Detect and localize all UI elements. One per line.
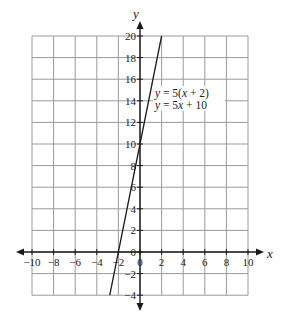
- x-tick-label: −4: [91, 256, 103, 268]
- y-tick-label: 16: [125, 73, 137, 85]
- x-axis-right-arrow-icon: [256, 249, 264, 256]
- x-tick-label: 8: [224, 256, 230, 268]
- x-tick-label: −6: [69, 256, 81, 268]
- y-tick-label: 20: [125, 30, 137, 42]
- y-tick-label: 2: [131, 224, 137, 236]
- y-tick-label: 4: [131, 203, 137, 215]
- y-tick-label: 12: [125, 116, 136, 128]
- x-tick-label: 4: [180, 256, 186, 268]
- x-tick-label: −8: [48, 256, 60, 268]
- x-axis-label: x: [266, 246, 273, 261]
- y-axis-down-arrow-icon: [137, 303, 144, 311]
- x-tick-label: −2: [113, 256, 125, 268]
- x-tick-label: 0: [137, 256, 143, 268]
- y-axis-label: y: [131, 6, 139, 21]
- y-tick-label: 14: [125, 95, 137, 107]
- x-tick-label: 10: [243, 256, 255, 268]
- y-axis-up-arrow-icon: [137, 21, 144, 29]
- coordinate-plane: −10−8−6−4−20246810−4−202468101214161820 …: [0, 0, 288, 326]
- x-tick-label: −10: [23, 256, 41, 268]
- x-tick-label: 6: [202, 256, 208, 268]
- y-tick-label: 0: [131, 246, 137, 258]
- y-tick-label: 18: [125, 52, 137, 64]
- y-tick-label: −2: [124, 268, 136, 280]
- x-tick-label: 2: [159, 256, 165, 268]
- equation-label-slope-intercept: y = 5x + 10: [154, 99, 207, 112]
- y-tick-label: −4: [124, 289, 136, 301]
- x-axis-left-arrow-icon: [16, 249, 24, 256]
- y-tick-label: 10: [125, 138, 137, 150]
